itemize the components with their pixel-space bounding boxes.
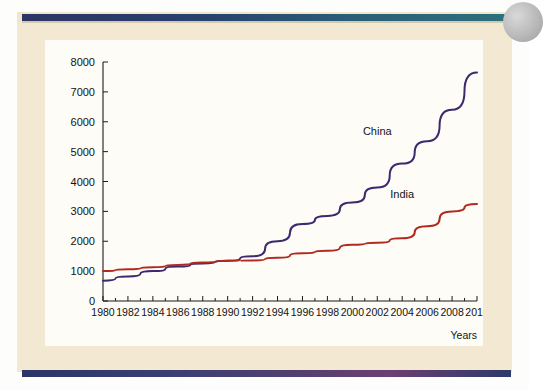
x-axis-ticks [103, 296, 477, 301]
x-tick-label: 2010 [465, 306, 483, 318]
x-tick-label: 1998 [316, 306, 340, 318]
y-tick-label: 5000 [71, 146, 95, 158]
chart-panel: 010002000300040005000600070008000 198019… [45, 40, 483, 346]
x-tick-label: 2000 [341, 306, 365, 318]
top-rule-shadow [22, 21, 506, 23]
y-tick-label: 3000 [71, 205, 95, 217]
x-tick-label: 1990 [216, 306, 240, 318]
x-tick-label: 1980 [91, 306, 115, 318]
y-tick-label: 1000 [71, 265, 95, 277]
y-tick-label: 2000 [71, 235, 95, 247]
y-tick-label: 8000 [71, 56, 95, 68]
x-tick-label: 1982 [116, 306, 140, 318]
y-axis-group: 010002000300040005000600070008000 [71, 56, 108, 307]
y-axis-ticks [103, 62, 108, 301]
x-tick-label: 1986 [166, 306, 190, 318]
x-tick-label: 2008 [440, 306, 464, 318]
x-tick-label: 1988 [191, 306, 215, 318]
series-label-china: China [363, 125, 393, 137]
corner-disc-decoration [503, 2, 543, 42]
x-axis-tick-labels: 1980198219841986198819901992199419961998… [91, 306, 483, 318]
x-tick-label: 2006 [415, 306, 439, 318]
x-tick-label: 1996 [291, 306, 315, 318]
top-rule-bar [22, 14, 506, 21]
x-tick-label: 1994 [266, 306, 290, 318]
y-tick-label: 4000 [71, 176, 95, 188]
series-line-india [103, 204, 477, 271]
bottom-rule-bar [22, 370, 511, 377]
x-axis-title: Years [451, 329, 477, 341]
series-line-china [103, 73, 477, 281]
y-tick-label: 7000 [71, 86, 95, 98]
x-tick-label: 2004 [391, 306, 415, 318]
x-tick-label: 1984 [141, 306, 165, 318]
x-axis-group: 1980198219841986198819901992199419961998… [91, 296, 483, 318]
series-label-india: India [390, 188, 415, 200]
line-chart: 010002000300040005000600070008000 198019… [45, 40, 483, 346]
y-tick-label: 6000 [71, 116, 95, 128]
x-tick-label: 1992 [241, 306, 265, 318]
series-lines [103, 73, 477, 281]
y-axis-tick-labels: 010002000300040005000600070008000 [71, 56, 95, 307]
x-tick-label: 2002 [366, 306, 390, 318]
